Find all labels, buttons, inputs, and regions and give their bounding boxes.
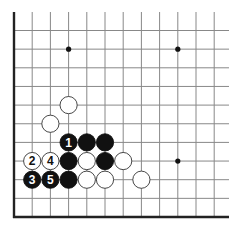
black-stone-icon — [96, 152, 113, 169]
white-stone-move-4: 4 — [42, 152, 59, 169]
move-number-label: 5 — [47, 173, 54, 187]
black-stone — [96, 134, 113, 151]
white-stone-icon — [42, 115, 59, 132]
black-stone-icon — [60, 152, 77, 169]
white-stone — [96, 171, 113, 188]
move-number-label: 2 — [29, 154, 36, 168]
move-number-label: 1 — [65, 136, 72, 150]
white-stone — [133, 171, 150, 188]
white-stone-move-2: 2 — [24, 152, 41, 169]
white-stone-icon — [60, 97, 77, 114]
black-stone-icon — [96, 134, 113, 151]
black-stone-move-5: 5 — [42, 171, 59, 188]
white-stone-icon — [78, 152, 95, 169]
star-point-icon — [66, 47, 71, 52]
white-stone-icon — [78, 171, 95, 188]
black-stone-move-3: 3 — [24, 171, 41, 188]
black-stone — [60, 171, 77, 188]
star-point-icon — [175, 47, 180, 52]
black-stone — [96, 152, 113, 169]
black-stone-move-1: 1 — [60, 134, 77, 151]
white-stone-icon — [115, 152, 132, 169]
move-number-label: 3 — [29, 173, 36, 187]
white-stone-icon — [96, 171, 113, 188]
white-stone — [78, 152, 95, 169]
white-stone — [42, 115, 59, 132]
black-stone — [78, 134, 95, 151]
star-point-icon — [175, 158, 180, 163]
white-stone-icon — [133, 171, 150, 188]
black-stone — [60, 152, 77, 169]
white-stone — [60, 97, 77, 114]
black-stone-icon — [78, 134, 95, 151]
white-stone — [78, 171, 95, 188]
move-number-label: 4 — [47, 154, 54, 168]
go-board: 12435 — [0, 0, 240, 231]
white-stone — [115, 152, 132, 169]
black-stone-icon — [60, 171, 77, 188]
